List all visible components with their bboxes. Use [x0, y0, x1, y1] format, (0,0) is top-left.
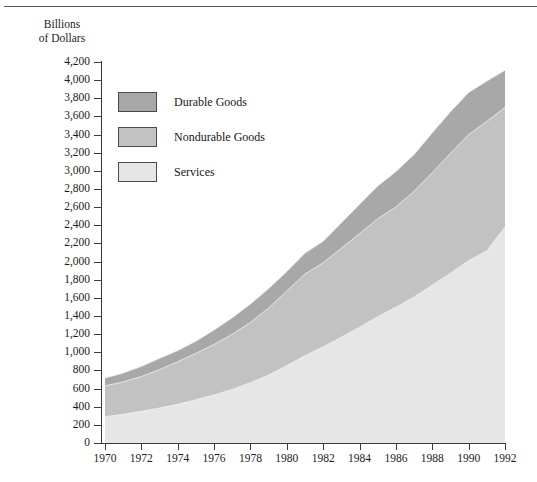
y-axis-tick-label: 1,400	[36, 310, 90, 322]
y-axis-tick-label: 1,600	[36, 292, 90, 304]
y-axis-tick-label: 0	[36, 437, 90, 449]
legend-label-durable: Durable Goods	[174, 95, 247, 110]
chart-page: Billions of Dollars 02004006008001,0001,…	[0, 0, 537, 482]
y-axis-tick-label: 1,000	[36, 346, 90, 358]
y-axis-tick-label: 1,800	[36, 274, 90, 286]
legend-label-services: Services	[174, 165, 215, 180]
y-axis-tick-label: 2,200	[36, 237, 90, 249]
plot-area: 02004006008001,0001,2001,4001,6001,8002,…	[0, 0, 537, 482]
y-axis-tick-label: 3,200	[36, 147, 90, 159]
legend-swatch-durable	[118, 92, 157, 112]
legend-swatch-services	[118, 162, 157, 182]
y-axis-tick-label: 3,600	[36, 110, 90, 122]
y-axis-tick-label: 200	[36, 419, 90, 431]
x-axis-tick-label: 1992	[480, 452, 530, 464]
y-axis-tick-label: 800	[36, 364, 90, 376]
y-axis-tick-label: 4,000	[36, 74, 90, 86]
y-axis-tick-label: 4,200	[36, 56, 90, 68]
y-axis-tick-label: 400	[36, 401, 90, 413]
y-axis-tick-label: 600	[36, 383, 90, 395]
y-axis-tick-label: 3,400	[36, 129, 90, 141]
y-axis-line	[101, 61, 102, 444]
y-axis-tick-label: 1,200	[36, 328, 90, 340]
y-axis-tick-label: 3,800	[36, 92, 90, 104]
y-axis-tick-label: 2,000	[36, 256, 90, 268]
y-axis-tick-label: 2,600	[36, 201, 90, 213]
y-axis-tick-label: 2,400	[36, 219, 90, 231]
legend-label-nondurable: Nondurable Goods	[174, 130, 265, 145]
y-axis-tick-label: 2,800	[36, 183, 90, 195]
y-axis-tick-label: 3,000	[36, 165, 90, 177]
x-axis-line	[101, 443, 506, 444]
legend-swatch-nondurable	[118, 127, 157, 147]
